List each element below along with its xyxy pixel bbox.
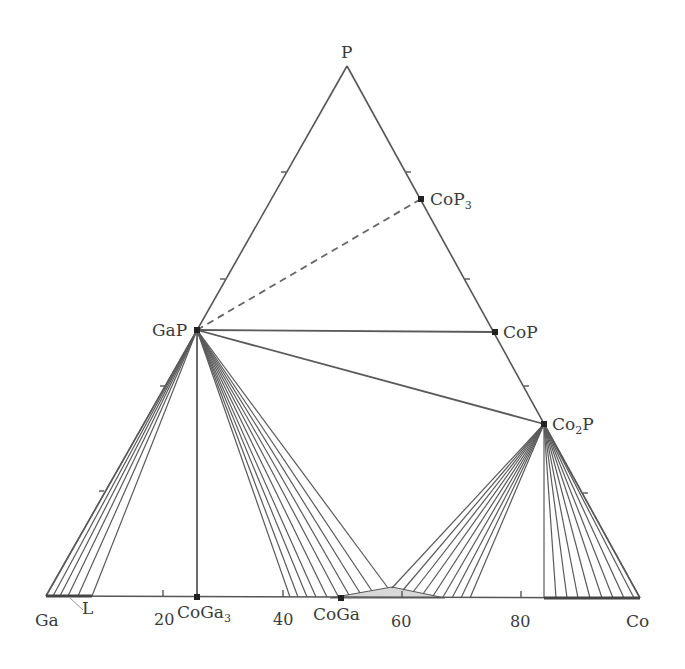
main-tie-lines xyxy=(197,330,544,597)
tie-line-fan-co2p-co xyxy=(544,424,640,598)
vertex-label-ga: Ga xyxy=(35,610,59,630)
phase-label-coga3: CoGa3 xyxy=(177,602,231,625)
gap-marker xyxy=(194,327,200,333)
coga-marker xyxy=(338,595,344,601)
ternary-phase-diagram: P Ga Co L 20 40 60 80 GaP CoP Co2P CoP3 … xyxy=(0,0,685,669)
tie-line-fan-gap-coga xyxy=(197,330,388,597)
phase-label-gap: GaP xyxy=(152,320,187,340)
phase-label-cop: CoP xyxy=(503,322,538,342)
cop-marker xyxy=(492,329,498,335)
phase-label-cop3: CoP3 xyxy=(430,189,472,212)
tick-label-40: 40 xyxy=(273,610,293,629)
co2p-marker xyxy=(541,421,547,427)
phase-label-co2p: Co2P xyxy=(552,414,594,437)
phase-label-coga: CoGa xyxy=(313,604,360,624)
tick-label-60: 60 xyxy=(391,612,411,631)
coga3-marker xyxy=(194,594,200,600)
tick-label-80: 80 xyxy=(510,612,530,631)
vertex-label-p: P xyxy=(341,42,352,62)
liquid-label: L xyxy=(82,598,93,618)
gap-cop3-dashed-tie-line xyxy=(197,199,421,330)
cop3-marker xyxy=(418,196,424,202)
tick-label-20: 20 xyxy=(154,610,174,629)
tie-line-fan-gap-liquid xyxy=(46,330,197,596)
vertex-label-co: Co xyxy=(626,611,649,631)
tie-line-fan-co2p-coga xyxy=(392,424,544,598)
